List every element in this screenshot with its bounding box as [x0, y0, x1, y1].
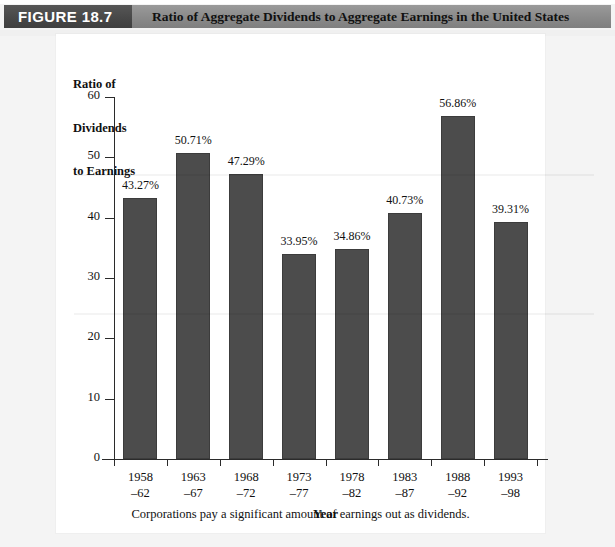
x-category-label: 1988–92 — [445, 469, 470, 501]
y-tick-label: 50 — [88, 148, 101, 163]
x-category-label-range: –72 — [234, 485, 259, 501]
x-category-label-year: 1968 — [234, 469, 259, 485]
bar — [335, 249, 369, 459]
x-tick — [220, 459, 221, 466]
x-category-label-range: –67 — [181, 485, 206, 501]
figure-caption: Corporations pay a significant amount of… — [56, 507, 545, 522]
plot-area: 0102030405060 43.27%50.71%47.29%33.95%34… — [114, 97, 537, 459]
figure-header-band: FIGURE 18.7 Ratio of Aggregate Dividends… — [4, 5, 611, 28]
x-category-label: 1958–62 — [128, 469, 153, 501]
bar-value-label: 39.31% — [492, 202, 529, 217]
figure-title: Ratio of Aggregate Dividends to Aggregat… — [132, 9, 569, 25]
y-axis-line — [114, 97, 115, 459]
y-tick: 0 — [105, 459, 114, 460]
y-tick-label: 20 — [88, 329, 101, 344]
bar — [229, 174, 263, 459]
bar — [176, 153, 210, 459]
scan-band-upper — [74, 174, 594, 176]
x-category-label-year: 1993 — [498, 469, 523, 485]
x-category-label-range: –92 — [445, 485, 470, 501]
figure-number-tag: FIGURE 18.7 — [4, 5, 132, 28]
y-tick: 20 — [105, 338, 114, 339]
y-tick: 50 — [105, 157, 114, 158]
y-tick-label: 60 — [88, 88, 101, 103]
bar — [441, 116, 475, 459]
x-tick — [484, 459, 485, 466]
y-tick: 60 — [105, 97, 114, 98]
bar-value-label: 40.73% — [386, 193, 423, 208]
x-tick — [167, 459, 168, 466]
x-category-label: 1978–82 — [339, 469, 364, 501]
y-tick-label: 40 — [88, 209, 101, 224]
bar-value-label: 47.29% — [228, 154, 265, 169]
bar-value-label: 43.27% — [122, 178, 159, 193]
y-tick-label: 0 — [94, 450, 100, 465]
x-tick — [273, 459, 274, 466]
x-category-label-range: –77 — [287, 485, 312, 501]
x-category-label-range: –62 — [128, 485, 153, 501]
x-category-label: 1963–67 — [181, 469, 206, 501]
x-category-label-year: 1988 — [445, 469, 470, 485]
x-category-label-year: 1983 — [392, 469, 417, 485]
y-tick-label: 10 — [88, 390, 101, 405]
x-category-label-year: 1978 — [339, 469, 364, 485]
bar — [388, 213, 422, 459]
x-tick — [114, 459, 115, 466]
y-tick-label: 30 — [88, 269, 101, 284]
y-tick: 10 — [105, 399, 114, 400]
x-category-label: 1993–98 — [498, 469, 523, 501]
x-category-label-range: –82 — [339, 485, 364, 501]
bar-value-label: 33.95% — [281, 234, 318, 249]
x-category-label-year: 1963 — [181, 469, 206, 485]
x-category-label-year: 1973 — [287, 469, 312, 485]
bar — [123, 198, 157, 459]
bar-value-label: 34.86% — [333, 229, 370, 244]
bar-value-label: 56.86% — [439, 96, 476, 111]
x-category-label: 1973–77 — [287, 469, 312, 501]
y-axis-title-line-1: Ratio of — [73, 77, 135, 92]
y-tick: 30 — [105, 278, 114, 279]
bar-value-label: 50.71% — [175, 133, 212, 148]
x-tick — [326, 459, 327, 466]
x-tick — [537, 459, 538, 466]
y-tick: 40 — [105, 218, 114, 219]
x-category-label-range: –98 — [498, 485, 523, 501]
x-category-label: 1983–87 — [392, 469, 417, 501]
x-category-label: 1968–72 — [234, 469, 259, 501]
chart-panel: Ratio of Dividends to Earnings 010203040… — [56, 34, 545, 533]
x-tick — [378, 459, 379, 466]
x-tick — [431, 459, 432, 466]
bar — [282, 254, 316, 459]
bar — [494, 222, 528, 459]
x-category-label-range: –87 — [392, 485, 417, 501]
x-category-label-year: 1958 — [128, 469, 153, 485]
